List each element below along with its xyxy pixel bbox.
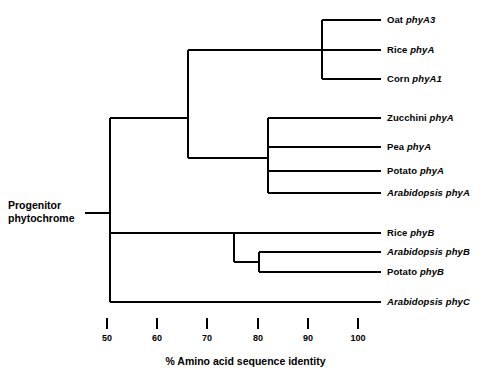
leaf-label: Corn phyA1 — [387, 74, 442, 84]
leaf-gene: phyA1 — [412, 73, 442, 84]
leaf-label: Arabidopsis phyA — [387, 188, 470, 198]
axis-title: % Amino acid sequence identity — [165, 355, 325, 367]
leaf-organism: Oat — [387, 14, 403, 25]
leaf-gene: phyA3 — [406, 14, 436, 25]
phylogenetic-tree-figure: Progenitor phytochrome Oat phyA3Rice phy… — [0, 0, 488, 382]
axis-tick-label-70: 70 — [202, 333, 212, 343]
leaf-label: Zucchini phyA — [387, 113, 454, 123]
leaf-gene: phyA — [410, 44, 434, 55]
leaf-organism: Rice — [387, 227, 407, 238]
leaf-gene: phyA — [446, 187, 470, 198]
leaf-gene: phyA — [407, 141, 431, 152]
leaf-gene: phyB — [420, 266, 444, 277]
axis-tick-label-80: 80 — [253, 333, 263, 343]
root-label-line2: phytochrome — [8, 212, 75, 225]
leaf-label: Potato phyA — [387, 166, 444, 176]
leaf-organism: Rice — [387, 44, 407, 55]
leaf-organism: Pea — [387, 141, 404, 152]
leaf-gene: phyA — [430, 112, 454, 123]
leaf-label: Rice phyB — [387, 228, 434, 238]
leaf-organism: Arabidopsis — [387, 296, 443, 307]
leaf-organism: Potato — [387, 266, 417, 277]
leaf-label: Rice phyA — [387, 45, 434, 55]
leaf-label: Arabidopsis phyB — [387, 247, 470, 257]
axis-tick-label-60: 60 — [152, 333, 162, 343]
leaf-organism: Arabidopsis — [387, 246, 443, 257]
leaf-organism: Zucchini — [387, 112, 427, 123]
leaf-organism: Corn — [387, 73, 410, 84]
axis-tick-label-90: 90 — [303, 333, 313, 343]
leaf-gene: phyC — [446, 296, 470, 307]
axis-tick-label-100: 100 — [350, 333, 365, 343]
leaf-label: Arabidopsis phyC — [387, 297, 470, 307]
leaf-gene: phyB — [446, 246, 470, 257]
leaf-organism: Arabidopsis — [387, 187, 443, 198]
leaf-label: Oat phyA3 — [387, 15, 435, 25]
leaf-gene: phyA — [420, 165, 444, 176]
leaf-organism: Potato — [387, 165, 417, 176]
leaf-gene: phyB — [410, 227, 434, 238]
leaf-label: Pea phyA — [387, 142, 431, 152]
leaf-label: Potato phyB — [387, 267, 444, 277]
axis-tick-label-50: 50 — [102, 333, 112, 343]
root-label-line1: Progenitor — [8, 199, 75, 212]
root-label: Progenitor phytochrome — [8, 199, 75, 225]
